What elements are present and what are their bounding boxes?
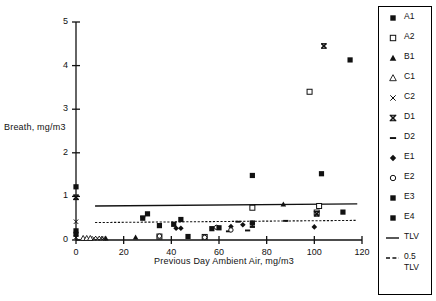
legend-item-label: C2 xyxy=(401,91,415,102)
series-E4 xyxy=(250,220,255,225)
legend-item-label: E3 xyxy=(401,191,414,202)
filled-square-icon xyxy=(385,191,401,205)
legend-item-label: TLV xyxy=(401,231,419,242)
dashed-line-icon xyxy=(385,251,401,265)
filled-square-icon xyxy=(385,211,401,225)
data-point xyxy=(340,209,345,214)
data-point xyxy=(319,171,324,176)
legend-item-label: E4 xyxy=(401,211,414,222)
legend-item-label: C1 xyxy=(401,71,415,82)
x-tick-label: 100 xyxy=(302,247,326,257)
data-point xyxy=(216,225,221,230)
data-point xyxy=(283,220,288,222)
data-point xyxy=(347,57,352,62)
x-tick-label: 120 xyxy=(350,247,374,257)
data-point xyxy=(209,226,214,231)
data-point xyxy=(317,203,322,208)
data-point xyxy=(178,225,184,231)
filled-triangle-icon xyxy=(385,51,401,65)
data-point xyxy=(321,44,327,49)
legend-item-a1[interactable]: A1 xyxy=(379,11,431,31)
filled-square-icon xyxy=(385,11,401,25)
x-tick-label: 40 xyxy=(159,247,183,257)
legend-box: A1A2B1C1C2D1D2E1E2E3E4TLV0.5 TLV xyxy=(378,6,432,295)
x-tick-label: 0 xyxy=(64,247,88,257)
legend-item-label: A2 xyxy=(401,31,414,42)
legend-item-a2[interactable]: A2 xyxy=(379,31,431,51)
dash-icon xyxy=(385,131,401,145)
series-C1 xyxy=(80,235,93,240)
x-tick-label: 20 xyxy=(112,247,136,257)
legend-item-b1[interactable]: B1 xyxy=(379,51,431,71)
legend-item-e2[interactable]: E2 xyxy=(379,171,431,191)
legend-list: A1A2B1C1C2D1D2E1E2E3E4TLV0.5 TLV xyxy=(379,11,431,279)
legend-item-label: A1 xyxy=(401,11,414,22)
y-axis-label: Breath, mg/m3 xyxy=(4,122,78,132)
data-point xyxy=(307,89,312,94)
legend-item-c2[interactable]: C2 xyxy=(379,91,431,111)
y-tick-label: 3 xyxy=(52,103,68,113)
data-point xyxy=(145,211,150,216)
legend-item-c1[interactable]: C1 xyxy=(379,71,431,91)
data-point xyxy=(250,173,255,178)
series-D1 xyxy=(73,44,327,216)
data-point xyxy=(312,224,318,230)
plot-area: Breath, mg/m3 Previous Day Ambient Air, … xyxy=(0,0,372,301)
series-A1 xyxy=(73,57,352,239)
y-tick-label: 2 xyxy=(52,147,68,157)
open-square-icon xyxy=(385,31,401,45)
data-point xyxy=(245,230,250,232)
data-point xyxy=(250,226,255,228)
solid-line-icon xyxy=(385,231,401,245)
legend-item-label: E1 xyxy=(401,151,414,162)
legend-item-d2[interactable]: D2 xyxy=(379,131,431,151)
data-point xyxy=(157,223,162,228)
cross-x-icon xyxy=(385,91,401,105)
x-axis-label: Previous Day Ambient Air, mg/m3 xyxy=(84,256,364,266)
legend-item-d1[interactable]: D1 xyxy=(379,111,431,131)
legend-item-0-5-tlv[interactable]: 0.5 TLV xyxy=(379,251,431,279)
legend-item-e1[interactable]: E1 xyxy=(379,151,431,171)
data-point xyxy=(133,235,139,240)
data-point xyxy=(250,220,255,225)
legend-item-label: 0.5 TLV xyxy=(401,251,419,273)
series-E3 xyxy=(216,225,221,230)
data-point xyxy=(203,235,207,239)
data-point xyxy=(185,234,190,239)
chart-figure: Breath, mg/m3 Previous Day Ambient Air, … xyxy=(0,0,436,301)
y-tick-label: 0 xyxy=(52,234,68,244)
data-point xyxy=(240,222,246,228)
data-point xyxy=(235,221,240,223)
data-point xyxy=(140,216,145,218)
data-point xyxy=(157,234,161,238)
legend-item-e4[interactable]: E4 xyxy=(379,211,431,231)
x-tick-label: 60 xyxy=(207,247,231,257)
data-point xyxy=(73,184,78,189)
bold-x-icon xyxy=(385,111,401,125)
open-circle-icon xyxy=(385,171,401,185)
data-point xyxy=(178,217,183,222)
legend-item-label: B1 xyxy=(401,51,414,62)
data-point xyxy=(229,228,233,232)
legend-item-tlv[interactable]: TLV xyxy=(379,231,431,251)
legend-item-label: E2 xyxy=(401,171,414,182)
legend-item-label: D2 xyxy=(401,131,415,142)
reference-line xyxy=(95,220,357,222)
data-points-layer xyxy=(73,44,353,241)
y-tick-label: 1 xyxy=(52,190,68,200)
filled-diamond-icon xyxy=(385,151,401,165)
legend-item-label: D1 xyxy=(401,111,415,122)
y-tick-label: 4 xyxy=(52,60,68,70)
series-E2 xyxy=(157,225,233,239)
legend-item-e3[interactable]: E3 xyxy=(379,191,431,211)
data-point xyxy=(250,205,255,210)
y-tick-label: 5 xyxy=(52,16,68,26)
open-triangle-icon xyxy=(385,71,401,85)
x-tick-label: 80 xyxy=(255,247,279,257)
